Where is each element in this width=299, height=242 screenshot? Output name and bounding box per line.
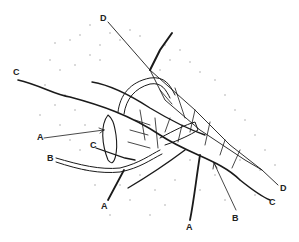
label-d-right: D (280, 184, 287, 193)
label-b-left: B (47, 154, 54, 163)
label-a-bottom-mid: A (186, 223, 193, 232)
label-b-right: B (232, 214, 239, 223)
diagram-figure (0, 0, 299, 242)
label-a-bottom-left: A (101, 202, 108, 211)
strands (18, 22, 278, 220)
label-c-right: C (269, 198, 276, 207)
label-c-mid: C (90, 141, 97, 150)
label-a-left: A (37, 133, 44, 142)
label-d-top: D (100, 14, 107, 23)
label-c-left: C (13, 68, 20, 77)
